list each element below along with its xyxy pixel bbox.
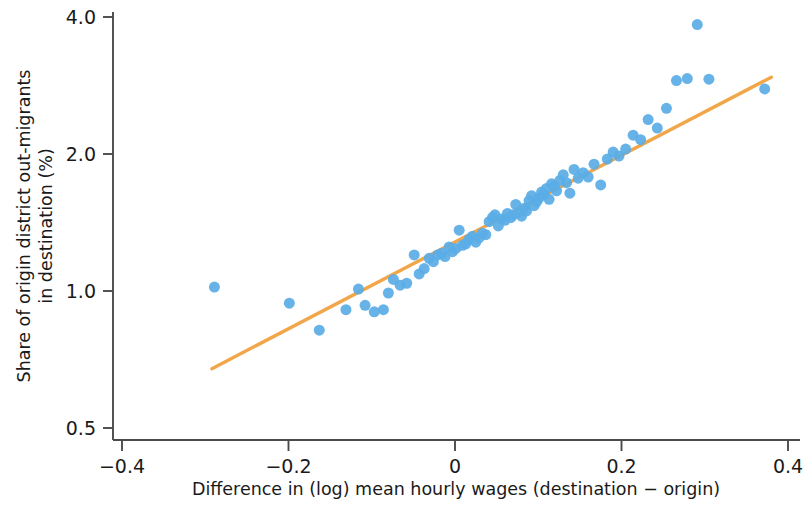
- scatter-point: [564, 188, 575, 199]
- scatter-point: [284, 298, 295, 309]
- x-axis-title: Difference in (log) mean hourly wages (d…: [192, 479, 720, 499]
- scatter-point: [353, 284, 364, 295]
- scatter-point: [703, 74, 714, 85]
- x-tick-label: −0.4: [99, 455, 145, 477]
- scatter-point: [551, 185, 562, 196]
- x-tick-label: −0.2: [265, 455, 311, 477]
- scatter-point: [340, 304, 351, 315]
- scatter-point: [661, 103, 672, 114]
- scatter-point: [759, 83, 770, 94]
- scatter-point: [635, 134, 646, 145]
- chart-canvas: 0.51.02.04.0 −0.4−0.200.20.4 Difference …: [0, 0, 811, 506]
- y-tick-label: 4.0: [66, 6, 96, 28]
- y-axis-title-line-1: Share of origin district out-migrants: [14, 70, 34, 383]
- scatter-point: [480, 229, 491, 240]
- scatter-point: [378, 304, 389, 315]
- scatter-point: [454, 225, 465, 236]
- scatter-point: [544, 194, 555, 205]
- scatter-point: [419, 263, 430, 274]
- scatter-plot-figure: 0.51.02.04.0 −0.4−0.200.20.4 Difference …: [0, 0, 811, 506]
- scatter-point: [409, 249, 420, 260]
- scatter-point: [314, 325, 325, 336]
- x-tick-label: 0: [449, 455, 461, 477]
- scatter-point: [643, 114, 654, 125]
- scatter-point: [369, 306, 380, 317]
- scatter-point: [561, 177, 572, 188]
- scatter-point: [360, 300, 371, 311]
- scatter-point: [583, 172, 594, 183]
- x-tick-label: 0.2: [606, 455, 636, 477]
- scatter-point: [589, 159, 600, 170]
- scatter-point: [595, 179, 606, 190]
- y-tick-label: 1.0: [66, 280, 96, 302]
- scatter-point: [401, 278, 412, 289]
- scatter-point: [671, 75, 682, 86]
- scatter-point: [383, 287, 394, 298]
- y-tick-label: 0.5: [66, 417, 96, 439]
- scatter-point: [620, 144, 631, 155]
- scatter-point: [652, 123, 663, 134]
- y-tick-label: 2.0: [66, 143, 96, 165]
- x-tick-label: 0.4: [773, 455, 803, 477]
- scatter-point: [682, 73, 693, 84]
- y-axis-title-line-2: in destination (%): [36, 148, 56, 303]
- scatter-point: [692, 19, 703, 30]
- scatter-point: [209, 282, 220, 293]
